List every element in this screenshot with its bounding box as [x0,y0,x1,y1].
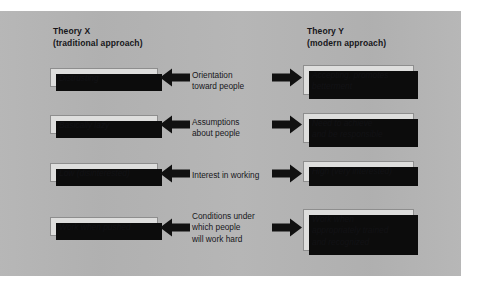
arrow-left-icon [160,218,190,237]
middle-label-1: Orientation toward people [192,70,244,93]
theory-x-item-2: Basically lazy [50,115,158,134]
arrow-left-icon [160,68,190,87]
theory-x-heading: Theory X (traditional approach) [53,26,143,49]
theory-x-item-3: Low (disinterested) [50,163,158,182]
arrow-right-icon [272,164,302,183]
figure-canvas: Theory X (traditional approach) Theory Y… [0,0,484,291]
arrow-right-icon [272,68,302,87]
middle-label-4: Conditions under which people will work … [192,211,255,245]
theory-x-item-1: Distrusting [50,68,158,87]
arrow-right-icon [272,115,302,134]
theory-y-item-4: Work when appropriately trained and reco… [303,209,414,251]
middle-label-2: Assumptions about people [192,117,240,140]
theory-y-item-3: High (very interested) [303,161,414,182]
theory-x-item-4: Work when pushed [50,217,158,236]
middle-label-3: Interest in working [192,170,259,181]
theory-y-item-2: Need to achieve and be responsible [303,113,414,143]
arrow-right-icon [272,218,302,237]
arrow-left-icon [160,164,190,183]
theory-y-item-1: Accepting, promotes betterment [303,65,414,95]
theory-y-heading: Theory Y (modern approach) [307,26,386,49]
arrow-left-icon [160,115,190,134]
